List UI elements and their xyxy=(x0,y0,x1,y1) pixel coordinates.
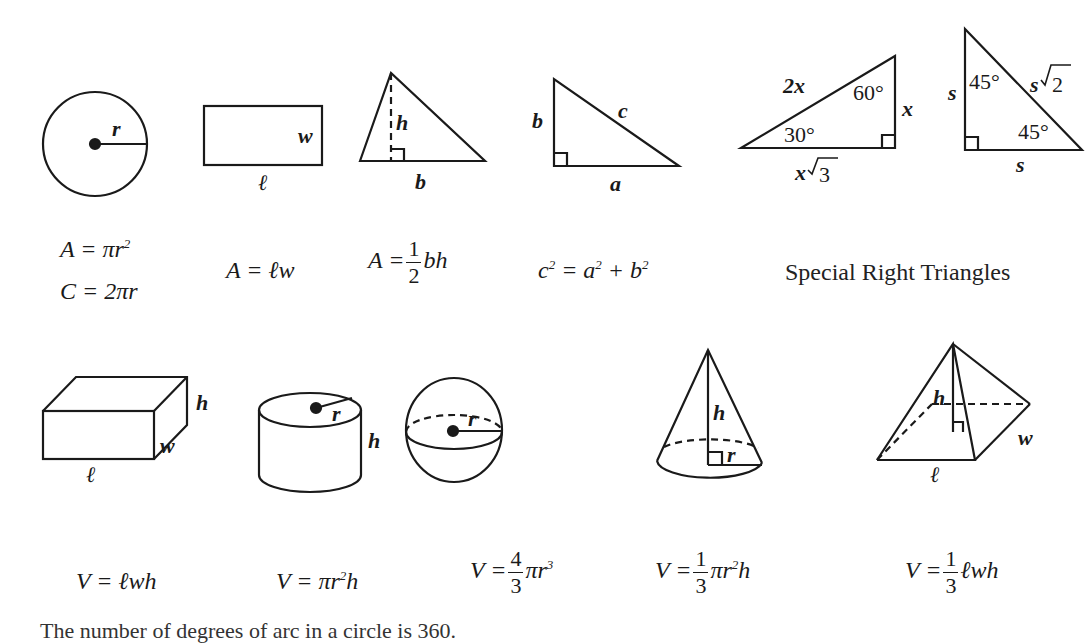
long-x-label: x xyxy=(794,160,806,185)
rect-l-label: ℓ xyxy=(258,170,268,195)
box-figure: h w ℓ xyxy=(43,377,208,487)
cone-h-label: h xyxy=(713,400,725,425)
formula-box-volume: V = ℓwh xyxy=(76,568,156,595)
right-triangle-figure: b c a xyxy=(532,79,679,196)
cone-r-label: r xyxy=(727,442,736,467)
circle-r-label: r xyxy=(112,116,121,141)
tri-b-label: b xyxy=(415,169,426,194)
cone-figure: h r xyxy=(657,350,762,478)
angle-30-label: 30° xyxy=(784,122,815,147)
formula-cone-volume: V =13πr2h xyxy=(655,546,750,599)
triangle-30-60-90: 2x 60° x 30° x 3 xyxy=(741,56,913,187)
box-l-label: ℓ xyxy=(86,462,96,487)
pyr-w-label: w xyxy=(1018,425,1033,450)
cyl-h-label: h xyxy=(368,428,380,453)
hyp-2x-label: 2x xyxy=(782,73,805,98)
pyr-h-label: h xyxy=(933,385,945,410)
triangle-figure: h b xyxy=(360,73,485,194)
cylinder-figure: r h xyxy=(259,393,380,492)
hyp-s-label: s xyxy=(1029,72,1039,97)
pyr-l-label: ℓ xyxy=(930,462,940,487)
tri-h-label: h xyxy=(396,110,408,135)
special-right-triangles-title: Special Right Triangles xyxy=(785,259,1010,286)
triangle-45-45-90: s 45° s 2 45° s xyxy=(947,29,1082,177)
box-h-label: h xyxy=(196,390,208,415)
formula-rect-area: A = ℓw xyxy=(226,257,294,284)
short-x-label: x xyxy=(901,96,913,121)
formula-circle-area: A = πr2 xyxy=(60,236,130,263)
rt-c-label: c xyxy=(618,98,628,123)
box-w-label: w xyxy=(160,433,175,458)
cyl-r-label: r xyxy=(332,401,341,426)
angle-60-label: 60° xyxy=(853,80,884,105)
formula-pyramid-volume: V =13ℓwh xyxy=(905,546,998,599)
footer-text: The number of degrees of arc in a circle… xyxy=(40,618,456,644)
formula-triangle-area: A =12bh xyxy=(368,236,447,289)
formula-sphere-volume: V =43πr3 xyxy=(470,546,553,599)
formula-cylinder-volume: V = πr2h xyxy=(276,568,358,595)
circle-figure: r xyxy=(43,92,147,196)
long-root-label: 3 xyxy=(819,162,830,187)
angle-45-top-label: 45° xyxy=(969,69,1000,94)
leg-s-bottom-label: s xyxy=(1015,152,1025,177)
leg-s-left-label: s xyxy=(947,80,957,105)
formula-circle-circumference: C = 2πr xyxy=(60,278,138,305)
sphere-figure: r xyxy=(406,378,502,482)
rt-a-label: a xyxy=(610,171,621,196)
rt-b-label: b xyxy=(532,108,543,133)
formula-pythagorean: c2 = a2 + b2 xyxy=(538,257,649,284)
pyramid-figure: h w ℓ xyxy=(877,344,1033,487)
hyp-root-label: 2 xyxy=(1052,72,1063,97)
angle-45-bottom-label: 45° xyxy=(1018,119,1049,144)
rectangle-figure: w ℓ xyxy=(204,106,322,195)
sphere-r-label: r xyxy=(468,406,477,431)
rect-w-label: w xyxy=(298,123,313,148)
